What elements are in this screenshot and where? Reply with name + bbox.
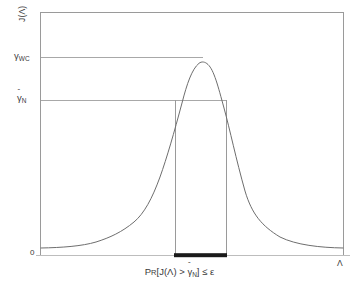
caption-body-open: [J(Λ) > [157, 266, 188, 277]
figure-container: J(Λ) γWC ˆγ N 0 Λ PR[J(Λ) > ˆγ N] ≤ ε [0, 0, 359, 296]
interval-bar [174, 253, 227, 257]
gamma-hat-n-subscript: N [22, 97, 27, 104]
gamma-hat-n-hat-mark: ˆ [17, 88, 21, 96]
caption-relation-text: ≤ ε [202, 266, 214, 277]
cost-curve [41, 62, 343, 248]
caption-gamma-hat-mark: ˆ [187, 261, 191, 269]
gamma-wc-subscript: WC [19, 55, 30, 62]
plot-frame [41, 13, 344, 256]
caption-formula: PR[J(Λ) > ˆγ N] ≤ ε [0, 266, 359, 278]
y-axis-label: J(Λ) [18, 6, 27, 22]
y-tick-label-gamma-wc: γWC [14, 51, 30, 63]
origin-label: 0 [30, 249, 34, 257]
gamma-hat-n-symbol-wrap: ˆγ [17, 93, 22, 103]
caption-gamma-hat-wrap: ˆγ [187, 266, 192, 277]
y-tick-label-gamma-hat-n: ˆγ N [17, 93, 26, 105]
plot-canvas [0, 0, 359, 296]
